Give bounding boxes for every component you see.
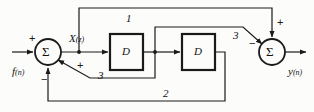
sign-summer-left-feedback: − xyxy=(41,74,47,85)
summer-left-symbol: Σ xyxy=(42,45,50,58)
gain-label-path-3-upper: 3 xyxy=(233,30,239,41)
sign-summer-right-branch: − xyxy=(249,38,255,49)
delay-2-label: D xyxy=(194,46,202,57)
output-signal-label: y(n) xyxy=(288,66,302,77)
intermediate-signal-label: X(z) xyxy=(69,33,84,44)
gain-label-path-2: 2 xyxy=(163,88,169,99)
sign-summer-left-input: + xyxy=(29,33,35,44)
output-signal-arg: (n) xyxy=(293,68,302,77)
input-signal-arg: (n) xyxy=(15,68,24,77)
intermediate-signal-arg: (z) xyxy=(76,35,84,44)
gain-label-path-3-lower: 3 xyxy=(98,70,104,81)
input-signal-label: f(n) xyxy=(12,66,24,77)
gain-label-path-1: 1 xyxy=(126,13,132,24)
sign-summer-right-top: + xyxy=(277,17,283,28)
summer-right-symbol: Σ xyxy=(266,45,274,58)
delay-1-label: D xyxy=(122,46,130,57)
intermediate-signal-base: X xyxy=(69,32,76,44)
wire-feedforward-path-1 xyxy=(79,8,272,52)
sign-summer-left-branch: + xyxy=(77,60,83,71)
block-diagram-canvas: Σ Σ D D f(n) X(z) y(n) 1 2 3 3 + + − + − xyxy=(0,0,314,112)
